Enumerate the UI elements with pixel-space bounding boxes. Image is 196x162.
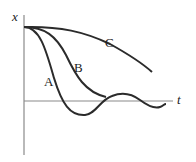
curve-label-b: B — [74, 60, 83, 75]
curve-label-a: A — [44, 74, 54, 89]
y-axis-label: x — [11, 9, 18, 24]
damping-diagram: x t C B A — [0, 0, 196, 162]
curve-a — [24, 27, 166, 115]
curve-label-c: C — [105, 35, 114, 50]
curve-c — [24, 27, 152, 72]
x-axis-label: t — [177, 92, 181, 107]
